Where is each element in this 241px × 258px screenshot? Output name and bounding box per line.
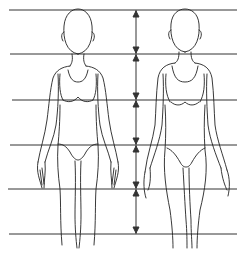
- proportion-diagram: [0, 0, 241, 258]
- measurement-arrows: [133, 10, 139, 234]
- figure-right: [144, 9, 229, 248]
- figure-left: [37, 9, 118, 248]
